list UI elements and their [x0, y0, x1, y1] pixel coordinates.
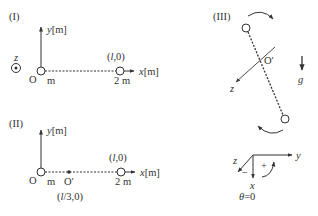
mass-m-circle: [37, 67, 45, 75]
pivot-label: O′: [64, 176, 74, 187]
dot-in-circle-icon: [12, 64, 21, 73]
rotation-arrow-top: [248, 12, 273, 19]
panel-3-label: (III): [213, 11, 231, 23]
mass-m-circle: [37, 168, 45, 176]
y-axis-label: y: [295, 150, 301, 161]
theta-label: θ=0: [239, 191, 255, 202]
right-point-coords: (l,0): [109, 152, 127, 164]
y-axis-label: y[m]: [46, 24, 67, 35]
mass-top-circle: [242, 24, 250, 32]
minus-label: −: [242, 167, 248, 178]
z-axis-label: z: [229, 83, 234, 94]
mass-m-label: m: [47, 176, 55, 187]
panel-1-label: (I): [9, 11, 20, 23]
x-axis-label: x: [249, 180, 255, 191]
rotation-arrow-bottom: [258, 126, 283, 133]
origin-label: O: [29, 175, 37, 186]
diagram-canvas: (I) y[m] x[m] O m 2 m (l,0) z (II) y[m] …: [0, 0, 318, 216]
mass-2m-label: 2 m: [114, 75, 130, 86]
mass-2m-circle: [117, 168, 125, 176]
axes-inset: y x z − + θ=0: [232, 150, 301, 202]
mass-bottom-circle: [281, 115, 289, 123]
mass-2m-circle: [116, 67, 124, 75]
y-axis-label: y[m]: [46, 125, 67, 136]
right-point-coords: (l,0): [107, 51, 125, 63]
pivot-point: [67, 170, 71, 174]
z-axis-label: z: [13, 52, 18, 63]
pivot-label: O′: [264, 55, 274, 66]
dumbbell-rod: [248, 32, 283, 115]
mass-2m-label: 2 m: [115, 176, 131, 187]
panel-2: (II) y[m] x[m] O m O′ 2 m (l,0) (l/3,0): [9, 118, 160, 203]
z-axis-label: z: [232, 155, 237, 166]
x-axis-label: x[m]: [138, 66, 159, 77]
panel-3: (III) z O′ g: [213, 11, 303, 133]
panel-1: (I) y[m] x[m] O m 2 m (l,0) z: [9, 11, 159, 86]
x-axis-label: x[m]: [139, 167, 160, 178]
panel-2-label: (II): [9, 118, 23, 130]
plus-label: +: [261, 160, 267, 171]
origin-label: O: [29, 74, 37, 85]
pivot-coords: (l/3,0): [57, 191, 83, 203]
mass-m-label: m: [47, 75, 55, 86]
gravity-label: g: [298, 74, 303, 85]
